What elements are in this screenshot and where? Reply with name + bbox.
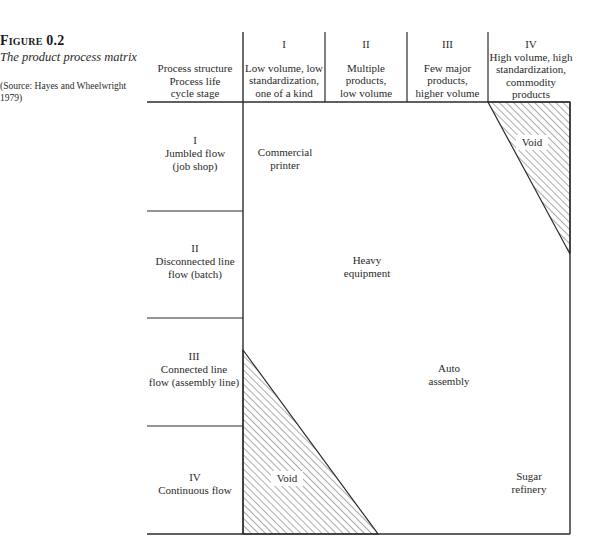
column-line: Low volume, low bbox=[243, 62, 325, 75]
example-line: Sugar bbox=[489, 470, 569, 483]
column-line: standardization, bbox=[486, 63, 576, 76]
example-auto-assembly: Auto assembly bbox=[409, 362, 489, 388]
column-line: Few major bbox=[407, 62, 488, 75]
void-region-bottom-left bbox=[243, 350, 378, 534]
column-line: higher volume bbox=[407, 87, 488, 100]
example-line: assembly bbox=[409, 375, 489, 388]
example-line: Heavy bbox=[327, 254, 407, 267]
column-line: commodity bbox=[486, 76, 576, 89]
corner-line: cycle stage bbox=[147, 87, 243, 100]
row-header-2: II Disconnected line flow (batch) bbox=[144, 242, 246, 281]
void-region-top-right bbox=[488, 102, 570, 254]
example-line: printer bbox=[245, 159, 325, 172]
column-header-3: III Few major products, higher volume bbox=[407, 38, 488, 99]
column-line: standardization, bbox=[243, 74, 325, 87]
row-line: Jumbled flow bbox=[147, 147, 243, 160]
row-header-4: IV Continuous flow bbox=[147, 471, 243, 497]
column-line: High volume, high bbox=[486, 51, 576, 64]
row-numeral: I bbox=[147, 134, 243, 147]
example-line: refinery bbox=[489, 483, 569, 496]
row-line: Continuous flow bbox=[147, 484, 243, 497]
example-line: equipment bbox=[327, 267, 407, 280]
column-header-2: II Multiple products, low volume bbox=[325, 38, 407, 99]
row-header-1: I Jumbled flow (job shop) bbox=[147, 134, 243, 173]
row-line: Disconnected line bbox=[144, 255, 246, 268]
row-header-3: III Connected line flow (assembly line) bbox=[140, 350, 248, 389]
example-sugar-refinery: Sugar refinery bbox=[489, 470, 569, 496]
header-corner: Process structure Process life cycle sta… bbox=[147, 62, 243, 100]
example-line: Auto bbox=[409, 362, 489, 375]
column-line: products bbox=[486, 88, 576, 101]
row-line: Connected line bbox=[140, 363, 248, 376]
corner-line: Process structure bbox=[147, 62, 243, 75]
column-header-1: I Low volume, low standardization, one o… bbox=[243, 38, 325, 99]
column-line: low volume bbox=[325, 87, 407, 100]
void-label-top-right: Void bbox=[516, 135, 548, 150]
column-numeral: II bbox=[325, 38, 407, 51]
row-line: (job shop) bbox=[147, 160, 243, 173]
column-numeral: IV bbox=[486, 38, 576, 51]
row-numeral: IV bbox=[147, 471, 243, 484]
column-line: products, bbox=[407, 74, 488, 87]
example-line: Commercial bbox=[245, 146, 325, 159]
row-line: flow (batch) bbox=[144, 268, 246, 281]
example-commercial-printer: Commercial printer bbox=[245, 146, 325, 172]
row-numeral: II bbox=[144, 242, 246, 255]
row-numeral: III bbox=[140, 350, 248, 363]
column-header-4: IV High volume, high standardization, co… bbox=[486, 38, 576, 101]
example-heavy-equipment: Heavy equipment bbox=[327, 254, 407, 280]
void-label-bottom-left: Void bbox=[271, 471, 303, 486]
column-numeral: III bbox=[407, 38, 488, 51]
column-numeral: I bbox=[243, 38, 325, 51]
column-line: one of a kind bbox=[243, 87, 325, 100]
row-line: flow (assembly line) bbox=[140, 376, 248, 389]
column-line: Multiple bbox=[325, 62, 407, 75]
corner-line: Process life bbox=[147, 75, 243, 88]
column-line: products, bbox=[325, 74, 407, 87]
